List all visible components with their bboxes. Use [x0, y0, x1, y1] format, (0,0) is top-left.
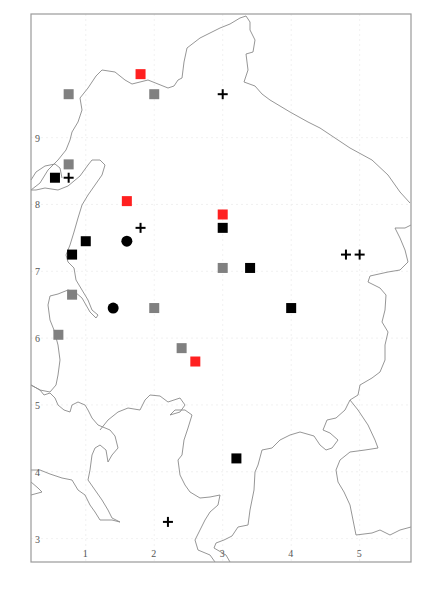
y-tick-label: 6 [35, 333, 40, 344]
plus-marker-icon [355, 250, 365, 260]
gray-square-marker-icon [177, 343, 187, 353]
black-square-marker-icon [50, 173, 60, 183]
circle-marker-icon [108, 303, 119, 314]
red-square-marker-icon [136, 69, 146, 79]
black-square-marker-icon [81, 236, 91, 246]
gray-square-marker-icon [149, 303, 159, 313]
plus-marker-icon [218, 89, 228, 99]
y-tick-label: 9 [35, 133, 40, 144]
gray-square-marker-icon [218, 263, 228, 273]
x-tick-label: 2 [151, 548, 156, 559]
x-tick-label: 3 [220, 548, 225, 559]
plus-marker-icon [136, 223, 146, 233]
gray-square-marker-icon [53, 330, 63, 340]
y-axis-ticks: 3456789 [35, 133, 40, 545]
black-square-marker-icon [245, 263, 255, 273]
plus-marker-icon [64, 173, 74, 183]
red-square-marker-icon [218, 209, 228, 219]
black-square-marker-icon [286, 303, 296, 313]
y-tick-label: 8 [35, 199, 40, 210]
x-tick-label: 5 [357, 548, 362, 559]
x-tick-label: 1 [83, 548, 88, 559]
coastline [31, 16, 411, 562]
black-square-marker-icon [231, 453, 241, 463]
y-tick-label: 3 [35, 534, 40, 545]
y-tick-label: 5 [35, 400, 40, 411]
red-square-marker-icon [122, 196, 132, 206]
map-plot: 3456789 12345 [0, 0, 433, 593]
gray-square-marker-icon [67, 290, 77, 300]
y-tick-label: 4 [35, 467, 40, 478]
gray-square-marker-icon [64, 159, 74, 169]
black-square-marker-icon [67, 250, 77, 260]
x-axis-ticks: 12345 [83, 548, 362, 559]
circle-marker-icon [121, 236, 132, 247]
x-tick-label: 4 [288, 548, 293, 559]
plus-marker-icon [163, 517, 173, 527]
red-square-marker-icon [190, 357, 200, 367]
y-tick-label: 7 [35, 266, 40, 277]
gray-square-marker-icon [149, 89, 159, 99]
plus-marker-icon [341, 250, 351, 260]
gray-square-marker-icon [64, 89, 74, 99]
black-square-marker-icon [218, 223, 228, 233]
